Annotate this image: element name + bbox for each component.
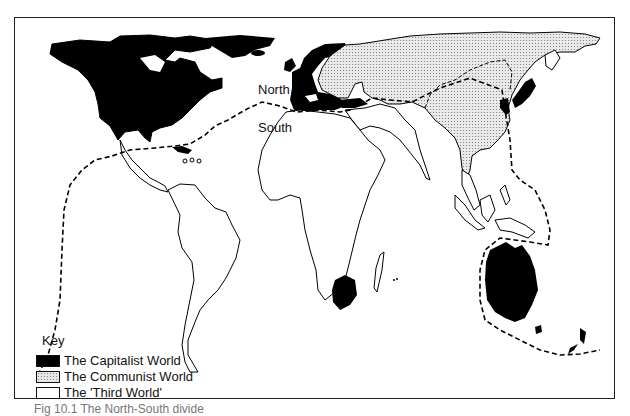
south-africa [332,275,357,310]
capitalist-swatch [36,355,60,367]
australia [485,242,538,322]
key-item-communist: The Communist World [36,369,193,384]
africa [258,110,385,300]
figure-caption: Fig 10.1 The North-South divide [34,402,204,416]
north-america [50,35,222,142]
greenland [205,35,275,58]
map-key: Key The Capitalist World The Communist W… [36,333,193,401]
communist-swatch [36,371,60,383]
new-zealand [580,328,586,344]
north-label: North [258,82,290,97]
key-item-third-world: The 'Third World' [36,385,193,400]
key-item-capitalist: The Capitalist World [36,353,193,368]
key-title: Key [42,333,193,348]
south-label: South [258,120,292,135]
third-world-swatch [36,387,60,399]
